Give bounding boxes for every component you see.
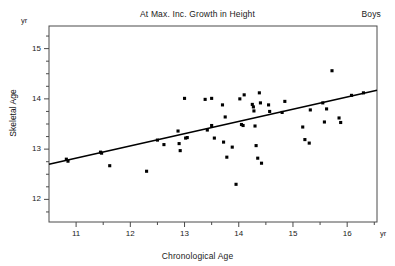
x-tick-label: 15 [281, 229, 305, 238]
x-tick-label: 16 [335, 229, 359, 238]
plot-area [0, 0, 395, 266]
y-tick-label: 14 [19, 94, 41, 103]
x-tick-label: 11 [64, 229, 88, 238]
y-tick-label: 13 [19, 144, 41, 153]
y-tick-label: 15 [19, 44, 41, 53]
regression-line [49, 90, 377, 164]
x-tick-label: 14 [227, 229, 251, 238]
x-tick-label: 13 [173, 229, 197, 238]
y-tick-label: 12 [19, 194, 41, 203]
axis-ticks [44, 36, 374, 227]
chart-figure: At Max. Inc. Growth in Height Boys Skele… [0, 0, 395, 266]
x-tick-label: 12 [118, 229, 142, 238]
